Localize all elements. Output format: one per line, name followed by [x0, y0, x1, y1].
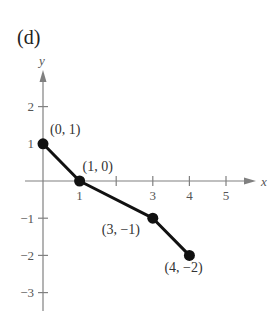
y-axis-arrow-icon — [40, 70, 47, 82]
x-axis-label: x — [260, 174, 267, 189]
axes: x y 1345 21−1−2−3 — [20, 53, 267, 311]
x-tick-label: 3 — [150, 188, 157, 203]
y-tick-label: −2 — [20, 248, 34, 263]
data-point — [38, 138, 49, 149]
data-point-labels: (0, 1)(1, 0)(3, −1)(4, −2) — [50, 122, 203, 277]
data-point — [74, 176, 85, 187]
x-axis-arrow-icon — [244, 178, 256, 185]
data-line — [43, 144, 189, 256]
x-tick-label: 5 — [223, 188, 230, 203]
data-series: (0, 1)(1, 0)(3, −1)(4, −2) — [38, 122, 203, 277]
data-point-label: (0, 1) — [50, 122, 81, 138]
y-ticks: 21−1−2−3 — [20, 99, 48, 300]
data-point — [184, 250, 195, 261]
y-tick-label: −1 — [20, 211, 34, 226]
y-tick-label: −3 — [20, 285, 34, 300]
data-point-label: (3, −1) — [102, 222, 141, 238]
data-point-label: (4, −2) — [164, 260, 203, 276]
panel-label: (d) — [17, 26, 40, 49]
x-tick-label: 1 — [76, 188, 83, 203]
chart-canvas: (d) x y 1345 21−1−2−3 (0, 1)(1, 0)(3, −1… — [0, 0, 272, 321]
data-point — [147, 213, 158, 224]
y-axis-label: y — [37, 53, 45, 68]
y-tick-label: 1 — [28, 136, 35, 151]
data-point-label: (1, 0) — [83, 159, 114, 175]
x-tick-label: 4 — [186, 188, 193, 203]
y-tick-label: 2 — [28, 99, 35, 114]
chart-figure: (d) x y 1345 21−1−2−3 (0, 1)(1, 0)(3, −1… — [0, 0, 272, 321]
